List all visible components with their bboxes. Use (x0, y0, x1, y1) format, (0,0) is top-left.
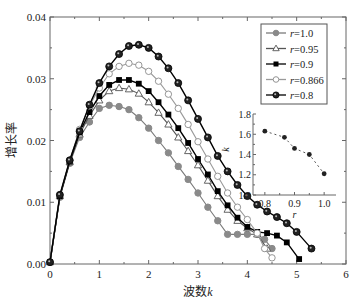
x-tick-label: 5 (294, 268, 300, 280)
inset-data-point (282, 135, 287, 140)
inset-y-label: k (220, 147, 231, 152)
x-tick-label: 1 (97, 268, 103, 280)
inset-x-label: r (293, 209, 297, 220)
legend-label: r=0.8 (290, 90, 313, 101)
inset-y-tick-label: 1.2 (239, 169, 252, 180)
y-tick-label: 0.04 (27, 11, 47, 23)
inset-x-tick-label: 0.8 (259, 198, 272, 209)
x-tick-label: 6 (343, 268, 349, 280)
legend: r=1.0r=0.95r=0.9r=0.866r=0.8 (261, 24, 327, 104)
inset-y-tick-label: 1.0 (239, 190, 252, 201)
x-axis-label: 波数k (183, 284, 213, 299)
y-tick-label: 0.02 (27, 135, 46, 147)
legend-label: r=1.0 (290, 28, 313, 39)
growth-rate-chart: 01234560.000.010.020.030.04 1.01.21.41.6… (0, 0, 359, 307)
inset-y-tick-label: 1.4 (239, 149, 252, 160)
legend-label: r=0.95 (290, 44, 318, 55)
x-tick-label: 2 (146, 268, 152, 280)
y-tick-label: 0.01 (27, 196, 46, 208)
legend-label: r=0.9 (290, 59, 313, 70)
inset-x-tick-label: 0.9 (288, 198, 301, 209)
x-tick-label: 4 (245, 268, 251, 280)
x-tick-label: 0 (47, 268, 53, 280)
inset-y-tick-label: 1.6 (239, 129, 252, 140)
inset-x-tick-label: 1.0 (318, 198, 331, 209)
x-tick-label: 3 (195, 268, 201, 280)
inset-data-point (292, 146, 297, 151)
inset-data-point (262, 129, 267, 134)
inset-chart: 1.01.21.41.61.80.80.91.0rk (220, 109, 336, 221)
inset-y-tick-label: 1.8 (239, 109, 252, 120)
y-axis-label: 增长率 (4, 122, 19, 158)
legend-label: r=0.866 (290, 75, 324, 86)
inset-data-point (307, 152, 312, 157)
inset-data-point (322, 171, 327, 176)
y-tick-label: 0.00 (27, 258, 47, 270)
y-tick-label: 0.03 (27, 73, 47, 85)
